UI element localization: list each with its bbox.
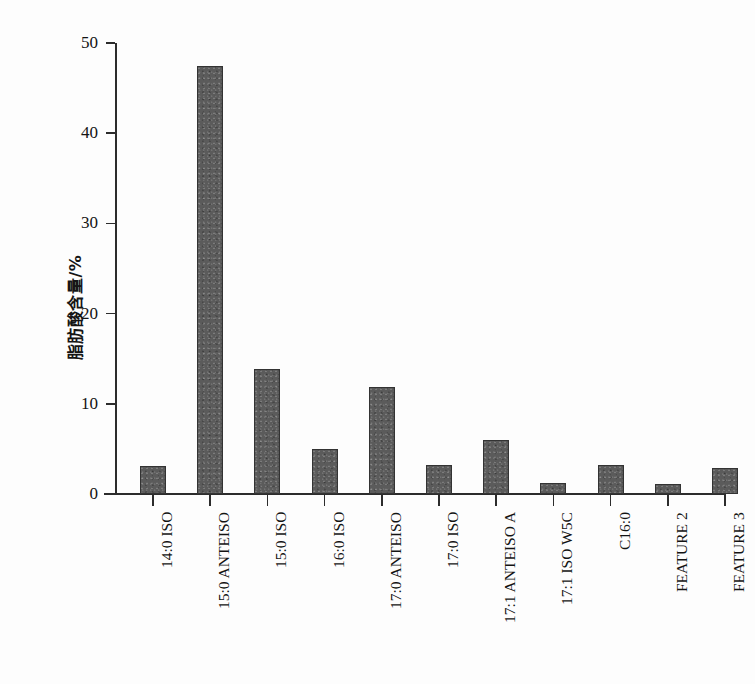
x-axis-label: 16:0 ISO <box>331 512 347 568</box>
x-axis-tick <box>553 494 555 506</box>
x-axis-label: FEATURE 3 <box>731 512 747 592</box>
bar <box>254 369 280 494</box>
y-axis-line <box>115 43 117 495</box>
y-axis-tick-label-text: 0 <box>52 485 98 502</box>
y-axis-tick <box>106 223 115 225</box>
bar <box>197 66 223 494</box>
chart-figure: 01020304050 14:0 ISO15:0 ANTEISO15:0 ISO… <box>0 0 755 684</box>
bar <box>540 483 566 494</box>
y-axis-tick-label-text: 50 <box>52 34 98 51</box>
bar <box>712 468 738 494</box>
y-axis-tick-label: 0 <box>46 485 98 503</box>
y-axis-tick <box>106 42 115 44</box>
x-axis-label: FEATURE 2 <box>674 512 690 592</box>
bar <box>655 484 681 494</box>
bar <box>369 387 395 494</box>
bar <box>312 449 338 494</box>
x-axis-label: 17:0 ANTEISO <box>388 512 404 609</box>
x-axis-label: 17:1 ISO W5C <box>559 512 575 605</box>
y-axis-tick-label: 10 <box>46 395 98 413</box>
bar <box>140 466 166 494</box>
y-axis-tick <box>106 132 115 134</box>
y-axis-tick <box>106 403 115 405</box>
y-axis-tick-label: 40 <box>46 124 98 142</box>
bar <box>598 465 624 494</box>
y-axis-tick-label-text: 10 <box>52 395 98 412</box>
plot-area: 01020304050 14:0 ISO15:0 ANTEISO15:0 ISO… <box>0 0 755 684</box>
y-axis-title: 脂肪酸含量/% <box>62 160 84 360</box>
x-axis-label: 17:0 ISO <box>445 512 461 568</box>
x-axis-tick <box>381 494 383 506</box>
y-axis-tick <box>106 313 115 315</box>
x-axis-tick <box>610 494 612 506</box>
x-axis-tick <box>667 494 669 506</box>
x-axis-tick <box>267 494 269 506</box>
x-axis-label: 15:0 ANTEISO <box>216 512 232 609</box>
x-axis-tick <box>209 494 211 506</box>
y-axis-tick-label-text: 40 <box>52 124 98 141</box>
x-axis-label: C16:0 <box>617 512 633 550</box>
y-axis-tick <box>106 493 115 495</box>
x-axis-label: 14:0 ISO <box>159 512 175 568</box>
x-axis-tick <box>438 494 440 506</box>
x-axis-tick <box>724 494 726 506</box>
bar <box>483 440 509 494</box>
y-axis-tick-label: 50 <box>46 34 98 52</box>
x-axis-label: 15:0 ISO <box>273 512 289 568</box>
x-axis-label: 17:1 ANTEISO A <box>502 512 518 623</box>
bar <box>426 465 452 494</box>
x-axis-tick <box>324 494 326 506</box>
x-axis-tick <box>152 494 154 506</box>
x-axis-tick <box>495 494 497 506</box>
